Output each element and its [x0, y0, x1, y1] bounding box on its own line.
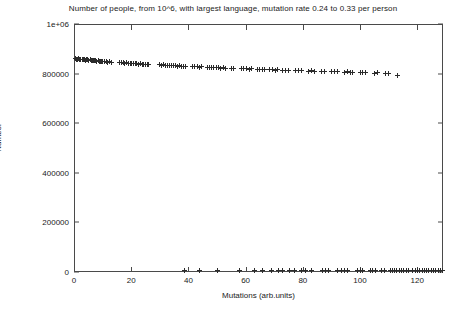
y-tick-mark-right [438, 24, 443, 25]
x-tick-mark-top [74, 25, 75, 30]
y-tick-mark-right [438, 73, 443, 74]
x-tick-mark [74, 267, 75, 272]
y-tick-mark-right [438, 123, 443, 124]
x-tick-label: 20 [127, 276, 136, 285]
x-tick-label: 120 [411, 276, 424, 285]
y-axis-label: Number [0, 123, 3, 151]
x-axis-label: Mutations (arb.units) [74, 291, 443, 300]
y-tick-label: 800000 [42, 69, 69, 78]
x-tick-mark [303, 267, 304, 272]
x-tick-mark-top [131, 25, 132, 30]
x-tick-label: 60 [241, 276, 250, 285]
x-tick-label: 40 [184, 276, 193, 285]
x-tick-label: 80 [298, 276, 307, 285]
y-tick-label: 600000 [42, 119, 69, 128]
y-tick-label: 200000 [42, 218, 69, 227]
y-tick-mark-right [438, 272, 443, 273]
y-tick-mark-right [438, 172, 443, 173]
x-tick-mark [131, 267, 132, 272]
x-tick-mark [417, 267, 418, 272]
x-tick-label: 0 [72, 276, 76, 285]
y-tick-mark [74, 222, 79, 223]
x-tick-mark [246, 267, 247, 272]
x-tick-mark [360, 267, 361, 272]
x-tick-mark-top [303, 25, 304, 30]
y-tick-mark [74, 73, 79, 74]
x-tick-mark [188, 267, 189, 272]
y-tick-mark [74, 123, 79, 124]
y-tick-mark [74, 172, 79, 173]
x-tick-label: 100 [353, 276, 366, 285]
x-tick-mark-top [360, 25, 361, 30]
y-tick-mark-right [438, 222, 443, 223]
y-tick-label: 400000 [42, 168, 69, 177]
x-tick-mark-top [246, 25, 247, 30]
x-tick-mark-top [417, 25, 418, 30]
x-tick-mark-top [188, 25, 189, 30]
y-tick-label: 1e+06 [47, 20, 69, 29]
y-tick-label: 0 [65, 268, 69, 277]
chart-title: Number of people, from 10^6, with larges… [0, 4, 466, 13]
plot-frame [74, 24, 443, 272]
chart-screenshot: Number of people, from 10^6, with larges… [0, 0, 466, 317]
